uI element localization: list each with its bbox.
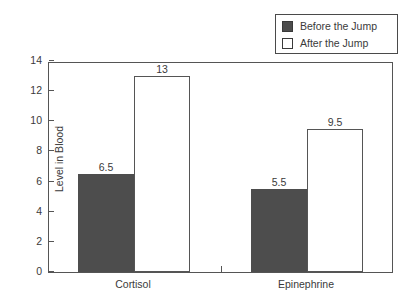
legend-swatch-after	[282, 38, 293, 49]
legend-item-before: Before the Jump	[282, 18, 393, 35]
y-axis-tick-label: 10	[30, 114, 42, 126]
x-axis-separator-tick	[221, 266, 222, 272]
plot-area: Level in Blood 02468101214 6.5135.59.5	[48, 62, 393, 273]
chart-container: Before the Jump After the Jump Level in …	[0, 0, 407, 300]
legend-item-after: After the Jump	[282, 35, 393, 52]
y-axis-tick-label: 8	[36, 144, 42, 156]
y-axis-tick-label: 2	[36, 235, 42, 247]
bar-before-the-jump[interactable]: 6.5	[78, 174, 134, 272]
y-axis-tick-mark	[49, 60, 54, 61]
bar-after-the-jump[interactable]: 13	[134, 76, 190, 272]
legend-swatch-before	[282, 21, 293, 32]
y-axis-tick-mark	[49, 150, 54, 151]
bar-after-the-jump[interactable]: 9.5	[307, 129, 363, 272]
bar-value-label: 9.5	[328, 116, 343, 128]
legend-label-after: After the Jump	[300, 38, 368, 49]
chart-legend: Before the Jump After the Jump	[275, 14, 398, 54]
bar-before-the-jump[interactable]: 5.5	[251, 189, 307, 272]
y-axis-tick-mark	[49, 211, 54, 212]
y-axis-tick-label: 6	[36, 175, 42, 187]
y-axis-tick-mark	[49, 241, 54, 242]
y-axis-tick-label: 12	[30, 84, 42, 96]
y-axis-tick-label: 0	[36, 265, 42, 277]
bar-value-label: 5.5	[272, 176, 287, 188]
legend-label-before: Before the Jump	[300, 21, 377, 32]
y-axis-tick-mark	[49, 181, 54, 182]
y-axis-tick-mark	[49, 90, 54, 91]
y-axis-tick-label: 4	[36, 205, 42, 217]
x-axis-category-label: Cortisol	[115, 278, 151, 290]
y-axis-title: Level in Blood	[53, 39, 65, 279]
bar-value-label: 13	[156, 63, 168, 75]
y-axis-tick-mark	[49, 120, 54, 121]
x-axis-category-label: Epinephrine	[278, 278, 334, 290]
bar-value-label: 6.5	[99, 161, 114, 173]
y-axis-tick-label: 14	[30, 54, 42, 66]
y-axis-tick-mark	[49, 271, 54, 272]
